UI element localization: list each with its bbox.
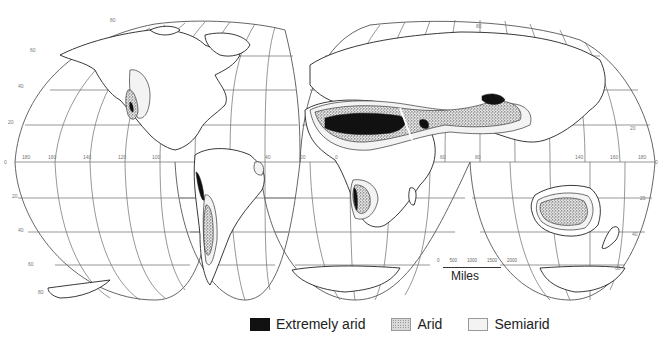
svg-text:40: 40 [265, 154, 271, 160]
legend-item-extremely-arid: Extremely arid [250, 316, 365, 332]
lat-label-top-80: 80 [110, 17, 116, 23]
longitude-labels: 180 160 140 120 100 40 20 0 60 80 140 16… [22, 154, 647, 160]
arid-swatch-icon [391, 318, 411, 331]
lat-label-right-20n: 20 [630, 125, 636, 131]
lat-label-80s: 80 [38, 289, 44, 295]
lat-label-60n: 60 [30, 47, 36, 53]
australia [531, 185, 619, 248]
lat-label-40n: 40 [18, 83, 24, 89]
svg-text:100: 100 [152, 154, 161, 160]
lat-label-right-40s: 40 [632, 231, 638, 237]
extremely-arid-swatch-icon [250, 318, 270, 331]
svg-text:60: 60 [440, 154, 446, 160]
legend-item-semiarid: Semiarid [468, 316, 549, 332]
lat-label-right-0: 0 [655, 159, 658, 165]
legend-label: Extremely arid [276, 316, 365, 332]
svg-text:180: 180 [638, 154, 647, 160]
lat-label-20n: 20 [8, 119, 14, 125]
lat-label-40s: 40 [18, 227, 24, 233]
scale-tick: 1500 [487, 258, 497, 263]
lat-label-0: 0 [4, 159, 7, 165]
lat-label-right-20s: 20 [640, 195, 646, 201]
lat-label-20s: 20 [12, 193, 18, 199]
svg-text:80: 80 [475, 154, 481, 160]
svg-text:0: 0 [335, 154, 338, 160]
svg-text:120: 120 [118, 154, 127, 160]
legend-label: Arid [417, 316, 442, 332]
north-america [60, 26, 250, 150]
scale-line [443, 267, 501, 268]
svg-text:180: 180 [22, 154, 31, 160]
legend: Extremely arid Arid Semiarid [250, 312, 576, 336]
svg-text:160: 160 [610, 154, 619, 160]
scale-tick: 500 [449, 258, 457, 263]
scale-tick: 0 [437, 258, 440, 263]
legend-item-arid: Arid [391, 316, 442, 332]
scale-tick: 1000 [467, 258, 477, 263]
svg-text:140: 140 [83, 154, 92, 160]
legend-label: Semiarid [494, 316, 549, 332]
map-canvas: 60 40 20 0 20 40 60 80 20 0 20 40 60 80 … [0, 0, 662, 310]
svg-text:20: 20 [300, 154, 306, 160]
semiarid-swatch-icon [468, 318, 488, 331]
scale-bar: 0 500 1000 1500 2000 Miles [437, 258, 517, 288]
scale-ticks: 0 500 1000 1500 2000 [437, 258, 517, 263]
svg-text:160: 160 [48, 154, 57, 160]
scale-tick: 2000 [507, 258, 517, 263]
scale-unit-label: Miles [451, 269, 479, 283]
lat-label-right-60s: 60 [615, 265, 621, 271]
south-america [194, 149, 264, 285]
lat-label-top-80-east: 80 [476, 23, 482, 29]
world-map: 60 40 20 0 20 40 60 80 20 0 20 40 60 80 … [0, 0, 662, 310]
lat-label-60s: 60 [28, 261, 34, 267]
svg-text:140: 140 [575, 154, 584, 160]
